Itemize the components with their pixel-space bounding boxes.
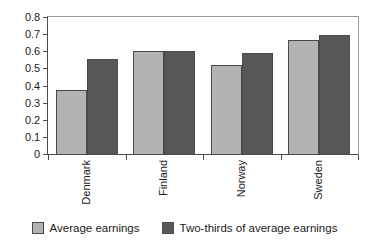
x-axis-label-cell: Denmark: [48, 158, 126, 214]
y-axis-tick-label: 0.4: [0, 80, 40, 91]
x-axis-label-cell: Finland: [126, 158, 204, 214]
legend-item: Two-thirds of average earnings: [162, 222, 338, 234]
bar: [87, 59, 118, 154]
bar-group: [203, 17, 281, 154]
legend-label: Average earnings: [50, 222, 140, 234]
x-axis-labels: DenmarkFinlandNorwaySweden: [48, 158, 358, 214]
y-axis-tick-label: 0.5: [0, 63, 40, 74]
y-axis-tick-label: 0.8: [0, 12, 40, 23]
legend-swatch: [32, 222, 44, 234]
bar: [288, 40, 319, 154]
x-axis-label-cell: Sweden: [281, 158, 359, 214]
bar: [319, 35, 350, 154]
bar-group: [281, 17, 359, 154]
x-axis-category-label: Norway: [236, 160, 247, 197]
y-axis-tick-label: 0.2: [0, 114, 40, 125]
legend-swatch: [162, 222, 174, 234]
bar-groups: [48, 17, 358, 154]
bar: [133, 51, 164, 154]
y-axis-tick-label: 0.6: [0, 46, 40, 57]
x-axis-label-cell: Norway: [203, 158, 281, 214]
bar: [211, 65, 242, 154]
chart-legend: Average earningsTwo-thirds of average ea…: [0, 222, 369, 234]
y-axis-tick-label: 0.3: [0, 97, 40, 108]
legend-label: Two-thirds of average earnings: [180, 222, 338, 234]
x-axis-category-label: Denmark: [81, 160, 92, 205]
legend-item: Average earnings: [32, 222, 140, 234]
bar: [164, 51, 195, 154]
y-axis-tick-label: 0: [0, 149, 40, 160]
x-axis-tick-mark: [358, 155, 359, 160]
y-axis-tick-label: 0.7: [0, 29, 40, 40]
bar: [56, 90, 87, 154]
bar: [242, 53, 273, 154]
y-axis-tick-label: 0.1: [0, 131, 40, 142]
bar-group: [48, 17, 126, 154]
bar-chart: 00.10.20.30.40.50.60.70.8 DenmarkFinland…: [0, 0, 369, 250]
x-axis-category-label: Finland: [158, 160, 169, 196]
x-axis-category-label: Sweden: [313, 160, 324, 200]
y-axis: 00.10.20.30.40.50.60.70.8: [0, 9, 47, 162]
bar-group: [126, 17, 204, 154]
